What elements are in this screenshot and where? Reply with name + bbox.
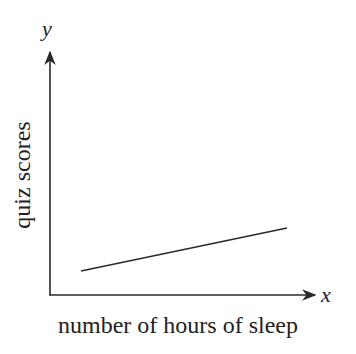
- x-axis-title: number of hours of sleep: [58, 312, 298, 338]
- line-graph: y x quiz scores number of hours of sleep: [0, 0, 356, 354]
- y-axis-title: quiz scores: [9, 121, 35, 228]
- y-axis-symbol: y: [40, 16, 52, 41]
- trend-line: [81, 228, 287, 271]
- x-axis-symbol: x: [320, 282, 331, 307]
